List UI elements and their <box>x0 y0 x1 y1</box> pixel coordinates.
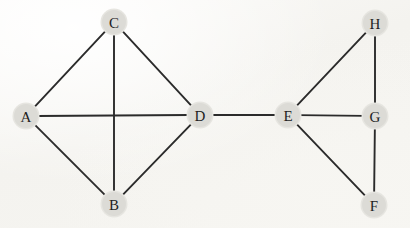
node-label-g: G <box>370 109 381 125</box>
graph-diagram: ABCDEFGH <box>0 0 410 228</box>
node-label-d: D <box>195 108 206 124</box>
graph-edge-e-f <box>295 123 367 198</box>
graph-node-b[interactable]: B <box>101 191 128 218</box>
node-label-h: H <box>370 16 381 32</box>
graph-node-f[interactable]: F <box>361 192 388 219</box>
node-label-f: F <box>370 198 378 214</box>
graph-edge-a-c <box>33 30 107 109</box>
graph-node-d[interactable]: D <box>187 102 214 129</box>
node-layer: ABCDEFGH <box>13 9 389 219</box>
graph-edge-g-f <box>374 127 375 195</box>
graph-node-c[interactable]: C <box>101 9 128 36</box>
graph-node-a[interactable]: A <box>13 103 40 130</box>
node-label-c: C <box>109 15 119 31</box>
graph-edge-a-b <box>33 123 106 196</box>
graph-node-h[interactable]: H <box>362 10 389 37</box>
graph-edge-e-g <box>299 115 365 116</box>
graph-edge-e-h <box>295 31 368 108</box>
graph-canvas: ABCDEFGH <box>0 0 410 228</box>
graph-edge-c-d <box>121 30 193 108</box>
graph-node-e[interactable]: E <box>275 102 302 129</box>
node-label-a: A <box>21 109 32 125</box>
graph-edge-b-d <box>121 123 192 197</box>
graph-edge-a-d <box>37 115 190 116</box>
node-label-b: B <box>109 197 119 213</box>
graph-node-g[interactable]: G <box>362 103 389 130</box>
node-label-e: E <box>283 108 292 124</box>
